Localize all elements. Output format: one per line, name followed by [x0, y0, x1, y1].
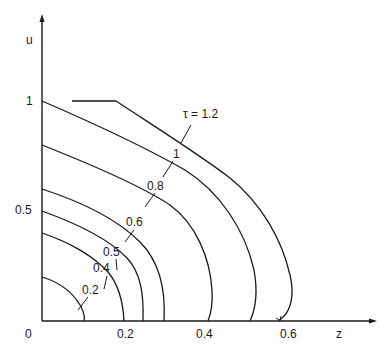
leader-line-0.5: [116, 259, 117, 270]
leader-line-1.2: [181, 125, 191, 143]
x-tick-label-0.4: 0.4: [196, 327, 213, 341]
x-axis-label: z: [336, 327, 342, 341]
curve-label-0.4: 0.4: [93, 261, 110, 275]
line-chart: u z 1 0.5 0 0.2 0.4 0.6 0.2 0.4 0.5 0.6 …: [0, 0, 386, 350]
x-tick-label-0.2: 0.2: [117, 327, 134, 341]
x-axis-arrow-icon: [369, 319, 377, 324]
y-tick-label-1: 1: [26, 94, 33, 108]
leader-line-0.4: [104, 276, 107, 289]
curve-label-0.8: 0.8: [147, 179, 164, 193]
y-axis-arrow-icon: [40, 14, 45, 22]
curve-label-0.6: 0.6: [126, 215, 143, 229]
curve-tau-1.2: [72, 101, 292, 321]
curve-tau-1.2-end-arrow-icon: [276, 316, 281, 321]
curve-tau-0.2: [42, 277, 84, 321]
curve-label-0.5: 0.5: [103, 245, 120, 259]
curve-tau-1: [42, 101, 256, 321]
curve-label-1: 1: [173, 147, 180, 161]
y-axis-label: u: [26, 33, 33, 47]
chart-container: u z 1 0.5 0 0.2 0.4 0.6 0.2 0.4 0.5 0.6 …: [0, 0, 386, 350]
curve-label-1.2: τ = 1.2: [183, 107, 218, 121]
curve-label-0.2: 0.2: [82, 283, 99, 297]
leader-line-1: [163, 161, 173, 177]
y-tick-label-0: 0: [25, 327, 32, 341]
y-tick-label-0.5: 0.5: [15, 203, 32, 217]
x-tick-label-0.6: 0.6: [280, 327, 297, 341]
leader-line-0.8: [145, 193, 155, 207]
